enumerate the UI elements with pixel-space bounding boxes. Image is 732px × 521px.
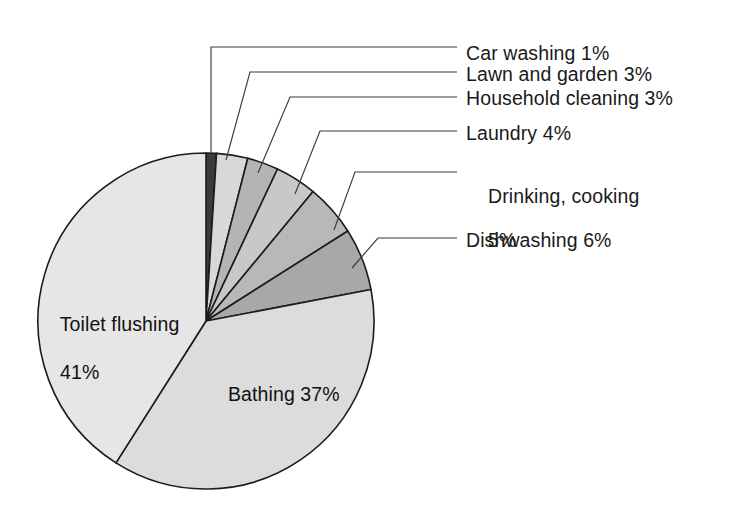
callout-laundry: Laundry 4%	[466, 122, 571, 144]
inside-label-toilet-flushing-line1: Toilet flushing	[60, 313, 180, 335]
callout-lawn-and-garden: Lawn and garden 3%	[466, 63, 652, 85]
leader-line-car-washing	[211, 47, 457, 156]
callout-household-cleaning: Household cleaning 3%	[466, 87, 673, 109]
leader-line-drinking-cooking	[334, 172, 457, 230]
inside-label-toilet-flushing: Toilet flushing 41%	[38, 288, 179, 408]
inside-label-bathing: Bathing 37%	[228, 382, 340, 406]
inside-label-toilet-flushing-line2: 41%	[60, 361, 99, 383]
leader-line-laundry	[295, 131, 457, 194]
pie-chart-figure: Car washing 1% Lawn and garden 3% Househ…	[0, 0, 732, 521]
callout-car-washing: Car washing 1%	[466, 42, 609, 64]
callout-drinking-cooking-line1: Drinking, cooking	[488, 185, 639, 207]
callout-dishwashing: Dishwashing 6%	[466, 229, 612, 251]
leader-line-lawn-and-garden	[226, 72, 457, 160]
leader-line-dishwashing	[352, 238, 457, 268]
leader-line-household-cleaning	[258, 97, 457, 173]
callout-drinking-cooking: Drinking, cooking 5%	[466, 163, 639, 273]
